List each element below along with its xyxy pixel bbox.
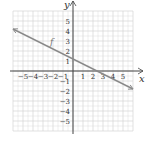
y-tick-label: −2 <box>60 88 70 96</box>
y-axis-label: y <box>63 0 70 10</box>
y-tick-label: 4 <box>66 28 71 36</box>
y-tick-label: −4 <box>60 108 71 116</box>
x-tick-label: −2 <box>48 73 58 81</box>
coordinate-plane: −5−4−3−2−11234554321−1−2−3−4−5 x y f <box>0 0 154 141</box>
y-tick-label: 3 <box>66 38 70 46</box>
y-tick-label: 5 <box>66 18 70 26</box>
x-axis-label: x <box>139 73 145 84</box>
y-tick-label: 2 <box>66 48 70 56</box>
x-tick-label: 1 <box>81 73 85 81</box>
y-tick-label: 1 <box>66 58 70 66</box>
y-tick-label: −5 <box>60 118 70 126</box>
y-tick-label: −3 <box>60 98 70 106</box>
x-tick-label: −5 <box>18 73 28 81</box>
x-tick-label: 2 <box>91 73 95 81</box>
x-tick-label: −3 <box>38 73 48 81</box>
function-label: f <box>49 37 55 47</box>
x-tick-label: 5 <box>121 73 125 81</box>
y-tick-label: −1 <box>60 78 70 86</box>
